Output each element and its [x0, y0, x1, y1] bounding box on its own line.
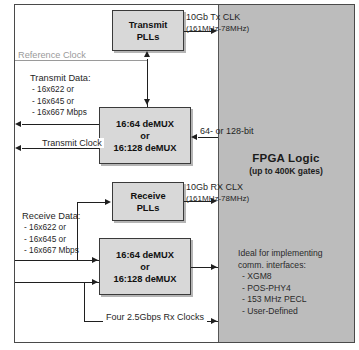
- transmit-demux-label-line3: 16:128 deMUX: [113, 142, 176, 154]
- tx-bus-line: [198, 137, 218, 138]
- transmit-demux-label-line2: or: [140, 130, 149, 142]
- reference-clock-line: [15, 60, 148, 61]
- fpga-interface-item-pecl: - 153 MHz PECL: [238, 294, 354, 306]
- receive-pll-block: Receive PLLs: [112, 182, 184, 221]
- receive-data-rate-622: - 16x622 or: [22, 222, 80, 233]
- receive-demux-label-line1: 16:64 deMUX: [116, 249, 174, 261]
- rx-clk-range-label: (161MHz-78MHz): [186, 194, 249, 203]
- transmit-data-labels: Transmit Data: - 16x622 or - 16x645 or -…: [30, 73, 91, 119]
- transmit-demux-block: 16:64 deMUX or 16:128 deMUX: [99, 107, 191, 164]
- receive-pll-arrowhead: [105, 199, 111, 205]
- transmit-pll-block: Transmit PLLs: [112, 10, 184, 51]
- receive-pll-branch-line: [77, 202, 78, 260]
- receive-data-rate-667: - 16x667 Mbps: [22, 245, 80, 256]
- receive-clock-in-line: [15, 282, 99, 283]
- fpga-interface-item-user-defined: - User-Defined: [238, 306, 354, 318]
- transmit-pll-to-demux-line: [147, 59, 148, 99]
- receive-data-line: [15, 260, 99, 261]
- transmit-data-rate-622: - 16x622 or: [30, 84, 91, 95]
- transmit-data-line: [22, 124, 99, 125]
- receive-pll-label-line1: Receive: [130, 190, 165, 202]
- transmit-clock-line: [22, 148, 99, 149]
- fpga-interface-list: Ideal for implementing comm. interfaces:…: [238, 248, 354, 318]
- transmit-data-heading: Transmit Data:: [30, 73, 91, 84]
- receive-clock-in-arrowhead: [92, 279, 98, 285]
- transmit-demux-label-line1: 16:64 deMUX: [116, 118, 174, 130]
- block-diagram: FPGA Logic (up to 400K gates) Ideal for …: [0, 0, 359, 350]
- fpga-interface-item-xgm8: - XGM8: [238, 271, 354, 283]
- receive-demux-to-fpga-arrowhead: [211, 264, 217, 270]
- transmit-pll-label-line1: Transmit: [129, 19, 168, 31]
- receive-demux-block: 16:64 deMUX or 16:128 deMUX: [99, 238, 191, 295]
- transmit-data-arrowhead: [15, 121, 21, 127]
- transmit-pll-label-line2: PLLs: [137, 31, 160, 43]
- rx-clk-label: 10Gb RX CLX: [186, 182, 243, 192]
- receive-data-rate-645: - 16x645 or: [22, 234, 80, 245]
- receive-demux-label-line3: 16:128 deMUX: [113, 273, 176, 285]
- receive-data-labels: Receive Data: - 16x622 or - 16x645 or - …: [22, 211, 80, 257]
- reference-clock-label: Reference Clock: [18, 50, 86, 60]
- bus-width-label: 64- or 128-bit: [200, 126, 254, 136]
- rx-clocks-arrowhead: [211, 318, 217, 324]
- fpga-logic-subtitle: (up to 400K gates): [218, 166, 354, 176]
- receive-data-heading: Receive Data:: [22, 211, 80, 222]
- transmit-demux-clock-arrowhead: [144, 99, 150, 105]
- rx-clocks-riser: [84, 282, 85, 321]
- transmit-clock-label: Transmit Clock: [40, 138, 104, 148]
- receive-demux-label-line2: or: [140, 261, 149, 273]
- transmit-clock-arrowhead: [15, 145, 21, 151]
- transmit-pll-input-arrowhead: [144, 51, 150, 57]
- fpga-list-heading-line2: comm. interfaces:: [238, 260, 354, 272]
- tx-clk-range-label: (161MHz-78MHz): [186, 24, 249, 33]
- transmit-data-rate-645: - 16x645 or: [30, 96, 91, 107]
- fpga-list-heading-line1: Ideal for implementing: [238, 248, 354, 260]
- receive-pll-feed-line: [77, 202, 105, 203]
- receive-data-arrowhead: [92, 257, 98, 263]
- transmit-data-rate-667: - 16x667 Mbps: [30, 107, 91, 118]
- rx-clocks-label: Four 2.5Gbps Rx Clocks: [103, 312, 207, 322]
- fpga-logic-title: FPGA Logic: [218, 152, 354, 164]
- tx-clk-label: 10Gb Tx CLK: [186, 12, 240, 22]
- receive-pll-label-line2: PLLs: [137, 202, 160, 214]
- tx-bus-arrowhead: [191, 134, 197, 140]
- fpga-interface-item-pos-phy4: - POS-PHY4: [238, 283, 354, 295]
